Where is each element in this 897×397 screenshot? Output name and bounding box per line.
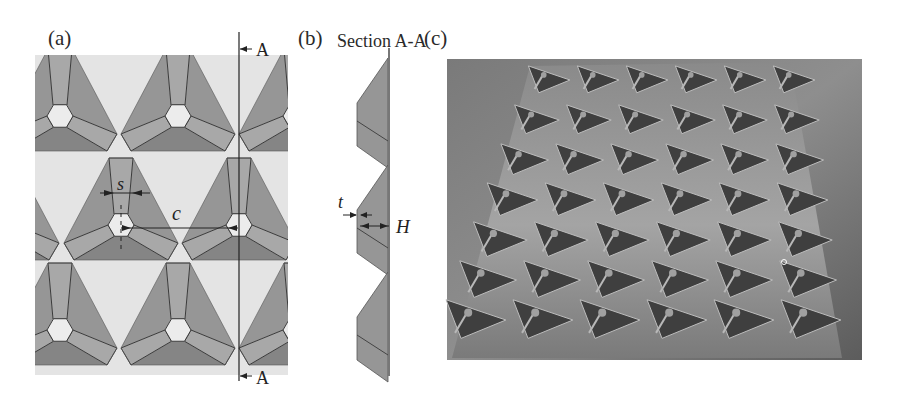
dimple-hole	[735, 151, 741, 157]
dimple-hole	[797, 269, 805, 277]
dimple-hole	[799, 309, 807, 317]
dimple-hole	[503, 190, 510, 197]
dimple-hole	[688, 72, 694, 78]
dimple-hole	[464, 309, 472, 317]
dimple-hole	[673, 230, 680, 237]
panel-c-photo	[446, 59, 862, 360]
dimple-hole	[734, 230, 741, 237]
section-trapezoid	[357, 272, 388, 382]
dimple-hole	[639, 72, 645, 78]
dimple-hole	[598, 309, 606, 317]
section-marker-bottom: A	[256, 368, 269, 388]
strut-right	[303, 330, 354, 365]
dimple-hole	[788, 112, 794, 118]
dimple-hole	[570, 151, 576, 157]
dimple-hole	[619, 190, 626, 197]
dimple-hole	[733, 269, 741, 277]
dimple-hole	[665, 309, 673, 317]
panel-a-plan-view: s c A A	[0, 32, 353, 388]
strut-right	[303, 116, 354, 151]
dimple-hole	[531, 309, 539, 317]
section-profile	[357, 58, 388, 382]
dimple-hole	[528, 112, 534, 118]
label-t: t	[338, 192, 344, 212]
dimple-hole	[795, 230, 802, 237]
dimple-hole	[736, 112, 742, 118]
dimple-hole	[684, 112, 690, 118]
dimple-hole	[680, 151, 686, 157]
section-marker-top: A	[256, 40, 269, 60]
dimple-hole	[786, 72, 792, 78]
strut-top	[0, 158, 14, 214]
dimple-hole	[590, 72, 596, 78]
figure-canvas: s c A A t	[0, 0, 897, 397]
dimple-hole	[515, 151, 521, 157]
trapezoid-body	[357, 58, 388, 168]
dimple-hole	[625, 151, 631, 157]
hexagon-hole	[0, 214, 15, 237]
label-c: c	[172, 202, 181, 224]
dimple-hole	[580, 112, 586, 118]
dimple-hole	[612, 230, 619, 237]
face-right	[303, 49, 353, 134]
dimple-hole	[737, 72, 743, 78]
trapezoid-body	[357, 165, 388, 275]
dimple-hole	[735, 190, 742, 197]
dimple-hole	[790, 151, 796, 157]
dimple-hole	[551, 230, 558, 237]
dimple-hole	[732, 309, 740, 317]
dimple-hole	[541, 72, 547, 78]
section-trapezoid	[357, 165, 388, 275]
dimple-hole	[632, 112, 638, 118]
panel-b-section-view: t H	[338, 48, 411, 382]
dimple-hole	[669, 269, 677, 277]
dimple-hole	[605, 269, 613, 277]
dimple-hole	[490, 230, 497, 237]
label-s: s	[117, 174, 124, 194]
dimple-hole	[793, 190, 800, 197]
face-right	[303, 263, 353, 348]
dimple-hole	[677, 190, 684, 197]
trapezoid-body	[357, 272, 388, 382]
label-h: H	[395, 216, 411, 237]
dimple-hole	[561, 190, 568, 197]
dimple-hole	[477, 269, 485, 277]
dimple-hole	[541, 269, 549, 277]
section-trapezoid	[357, 58, 388, 168]
